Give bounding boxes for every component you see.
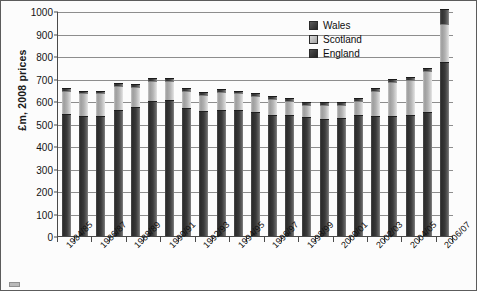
bar-segment-scotland-1999-00 xyxy=(320,105,329,120)
stacked-bar-1997-98[interactable] xyxy=(285,98,294,236)
bar-slot-1986-87 xyxy=(92,12,109,236)
y-tick-label-100: 100 xyxy=(36,209,53,220)
bar-segment-scotland-1993-94 xyxy=(217,92,226,110)
x-tick-mark-1994-95 xyxy=(229,237,230,242)
bar-segment-england-1992-93 xyxy=(199,111,208,236)
england-swatch-icon xyxy=(309,49,318,58)
legend-item-england: England xyxy=(309,48,362,59)
bar-segment-scotland-1998-99 xyxy=(302,105,311,117)
bar-segment-scotland-2005-06 xyxy=(423,71,432,113)
y-tick-label-0: 0 xyxy=(47,232,53,243)
y-tick-label-200: 200 xyxy=(36,187,53,198)
x-tick-mark-1992-93 xyxy=(195,237,196,242)
bar-segment-england-1997-98 xyxy=(285,115,294,236)
bar-segment-scotland-2003-04 xyxy=(388,82,397,116)
bar-segment-scotland-2004-05 xyxy=(406,80,415,115)
bar-segment-england-2001-02 xyxy=(354,115,363,236)
bar-segment-scotland-2000-01 xyxy=(337,105,346,118)
bar-segment-scotland-2002-03 xyxy=(371,91,380,116)
bar-segment-england-2004-05 xyxy=(406,115,415,236)
chart-legend: Wales Scotland England xyxy=(309,20,362,59)
bar-segment-scotland-1987-88 xyxy=(114,86,123,111)
y-tick-label-900: 900 xyxy=(36,29,53,40)
stacked-bar-1988-89[interactable] xyxy=(131,84,140,236)
bar-slot-1997-98 xyxy=(281,12,298,236)
legend-item-scotland: Scotland xyxy=(309,34,362,45)
bar-segment-scotland-1990-91 xyxy=(165,81,174,100)
y-tick-label-800: 800 xyxy=(36,52,53,63)
bar-segment-scotland-1996-97 xyxy=(268,99,277,115)
bar-slot-2003-04 xyxy=(384,12,401,236)
legend-label-scotland: Scotland xyxy=(323,34,362,45)
stacked-bar-2003-04[interactable] xyxy=(388,79,397,236)
bar-slot-1994-95 xyxy=(230,12,247,236)
bar-segment-scotland-1994-95 xyxy=(234,93,243,110)
bar-segment-scotland-2001-02 xyxy=(354,101,363,114)
bar-segment-wales-2006-07 xyxy=(440,9,449,24)
bar-segment-scotland-1991-92 xyxy=(182,91,191,108)
bar-segment-england-2002-03 xyxy=(371,116,380,236)
x-tick-mark-1998-99 xyxy=(298,237,299,242)
bar-slot-1995-96 xyxy=(247,12,264,236)
stacked-bar-1991-92[interactable] xyxy=(182,88,191,236)
chart-figure: £m, 2008 prices 010020030040050060070080… xyxy=(0,0,477,291)
bar-slot-1996-97 xyxy=(264,12,281,236)
stacked-bar-2002-03[interactable] xyxy=(371,88,380,236)
footnote-marker-icon xyxy=(9,282,20,287)
x-tick-mark-1996-97 xyxy=(264,237,265,242)
bar-segment-england-1996-97 xyxy=(268,115,277,236)
bar-segment-england-1988-89 xyxy=(131,107,140,236)
bar-segment-scotland-1985-86 xyxy=(79,93,88,115)
bar-segment-scotland-1995-96 xyxy=(251,96,260,113)
legend-label-wales: Wales xyxy=(323,20,350,31)
stacked-bar-1984-85[interactable] xyxy=(62,88,71,236)
stacked-bar-2004-05[interactable] xyxy=(406,77,415,236)
stacked-bar-1998-99[interactable] xyxy=(302,102,311,236)
y-tick-label-400: 400 xyxy=(36,142,53,153)
bar-segment-scotland-2006-07 xyxy=(440,24,449,62)
stacked-bar-2005-06[interactable] xyxy=(423,68,432,236)
stacked-bar-2006-07[interactable] xyxy=(440,9,449,236)
scotland-swatch-icon xyxy=(309,35,318,44)
legend-label-england: England xyxy=(323,48,360,59)
x-tick-mark-1986-87 xyxy=(91,237,92,242)
legend-item-wales: Wales xyxy=(309,20,362,31)
bar-segment-scotland-1986-87 xyxy=(96,93,105,115)
bar-segment-england-1984-85 xyxy=(62,114,71,237)
bar-slot-1990-91 xyxy=(161,12,178,236)
x-tick-mark-1988-89 xyxy=(126,237,127,242)
x-tick-mark-2000-01 xyxy=(333,237,334,242)
y-axis-title: £m, 2008 prices xyxy=(16,30,28,150)
stacked-bar-2001-02[interactable] xyxy=(354,98,363,236)
bar-segment-england-1995-96 xyxy=(251,112,260,236)
bar-segment-england-1985-86 xyxy=(79,116,88,236)
y-tick-label-600: 600 xyxy=(36,97,53,108)
x-tick-mark-2006-07 xyxy=(436,237,437,242)
stacked-bar-1985-86[interactable] xyxy=(79,91,88,236)
stacked-bar-1986-87[interactable] xyxy=(96,91,105,236)
stacked-bar-1993-94[interactable] xyxy=(217,89,226,236)
bar-slot-1987-88 xyxy=(110,12,127,236)
stacked-bar-2000-01[interactable] xyxy=(337,102,346,236)
stacked-bar-1989-90[interactable] xyxy=(148,78,157,236)
bar-series-group xyxy=(58,12,453,236)
bar-segment-england-1987-88 xyxy=(114,110,123,236)
stacked-bar-1996-97[interactable] xyxy=(268,96,277,236)
stacked-bar-1987-88[interactable] xyxy=(114,83,123,236)
stacked-bar-1999-00[interactable] xyxy=(320,102,329,236)
stacked-bar-1995-96[interactable] xyxy=(251,93,260,236)
bar-slot-1988-89 xyxy=(127,12,144,236)
stacked-bar-1994-95[interactable] xyxy=(234,91,243,236)
stacked-bar-1992-93[interactable] xyxy=(199,92,208,236)
bar-segment-england-1991-92 xyxy=(182,108,191,236)
x-tick-mark-1984-85 xyxy=(57,237,58,242)
y-tick-label-500: 500 xyxy=(36,119,53,130)
stacked-bar-1990-91[interactable] xyxy=(165,78,174,236)
bar-segment-england-1994-95 xyxy=(234,110,243,236)
bar-slot-2004-05 xyxy=(401,12,418,236)
bar-segment-england-1989-90 xyxy=(148,101,157,236)
x-tick-mark-1990-91 xyxy=(160,237,161,242)
bar-segment-scotland-1988-89 xyxy=(131,87,140,107)
bar-segment-scotland-1989-90 xyxy=(148,81,157,101)
bar-slot-2002-03 xyxy=(367,12,384,236)
